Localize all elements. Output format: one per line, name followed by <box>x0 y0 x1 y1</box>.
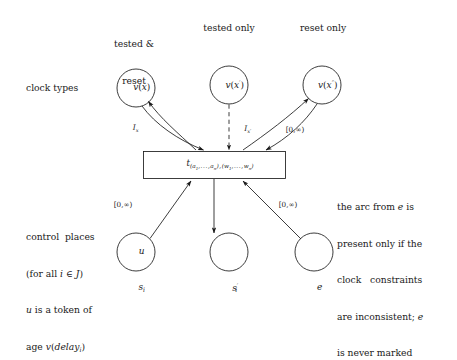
transition-label-sub: (a1, . . . , an) , (w1, . . . , wn) <box>190 163 254 169</box>
transition-label: t(a1, . . . , an) , (w1, . . . , wn) <box>135 147 295 182</box>
arc-label-right-clock: [0,∞) <box>286 125 304 135</box>
place-label-vxpp-paren2: ) <box>334 79 338 89</box>
arc-label-left-clock: Ix <box>123 113 138 143</box>
arc-label-middle-clock-sub: x′ <box>247 127 251 133</box>
place-label-vxp: v(x′) <box>214 67 244 103</box>
note-control-places-line-0: control places <box>26 231 134 243</box>
note-arc-from-e-line-2: clock constraints <box>337 274 453 286</box>
token-label-u-text: u <box>139 246 145 256</box>
note-control-places-line-2: u is a token of <box>26 304 134 316</box>
place-label-vx: v(x) <box>122 70 151 106</box>
place-name-sip: s′i <box>221 270 237 306</box>
place-name-e-text: e <box>317 282 322 292</box>
arc-transition-to-vx <box>149 102 197 151</box>
arc-e-to-transition <box>243 181 301 239</box>
note-arc-from-e-line-0: the arc from e is <box>337 201 453 213</box>
note-arc-from-e-line-4: is never marked <box>337 347 453 359</box>
place-label-vxp-paren2: ) <box>241 79 245 89</box>
arc-transition-to-vxpp <box>243 99 309 151</box>
arc-label-middle-clock: Ix′ <box>235 114 251 144</box>
note-arc-from-e: the arc from e is present only if the cl… <box>337 177 453 360</box>
arc-si-to-transition <box>150 181 191 239</box>
row-label-clock-types: clock types <box>26 82 78 94</box>
arc-label-left-clock-sub: x <box>136 126 139 132</box>
arc-label-right-control: [0,∞) <box>279 200 297 210</box>
place-circle-sip <box>210 233 248 271</box>
note-control-places-line-3: age v(delayi) <box>26 341 134 354</box>
place-label-vx-paren2: ) <box>147 82 151 92</box>
note-arc-from-e-line-3: are inconsistent; e <box>337 311 453 323</box>
header-reset-only: reset only <box>300 22 346 34</box>
place-name-si-sub: i <box>143 286 145 293</box>
header-tested-only: tested only <box>203 22 254 34</box>
header-tested-and-reset-line1: tested & <box>114 38 154 50</box>
place-label-vxpp: v(x″) <box>306 67 337 103</box>
note-arc-from-e-line-1: present only if the <box>337 238 453 250</box>
note-control-places-line-1: (for all i ∈ J) <box>26 268 134 280</box>
note-control-places: control places (for all i ∈ J) u is a to… <box>26 207 134 360</box>
place-name-e: e <box>306 270 323 306</box>
place-name-sip-prime: ′ <box>237 282 238 289</box>
